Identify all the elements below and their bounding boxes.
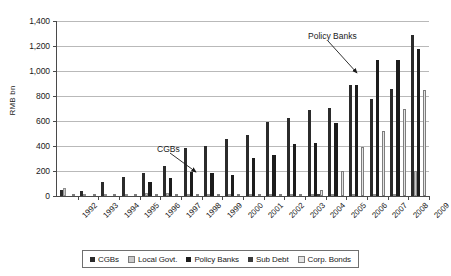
legend-label: Sub Debt bbox=[256, 255, 289, 264]
bar bbox=[196, 194, 199, 196]
legend-swatch-icon bbox=[128, 256, 135, 263]
x-axis-label: 2004 bbox=[329, 201, 348, 220]
x-tick-mark bbox=[388, 196, 389, 200]
legend-label: CGBs bbox=[98, 255, 119, 264]
x-axis-label: 2001 bbox=[267, 201, 286, 220]
bar bbox=[299, 194, 302, 196]
x-axis-label: 1999 bbox=[225, 201, 244, 220]
x-tick-mark bbox=[284, 196, 285, 200]
bar bbox=[204, 146, 207, 196]
bar bbox=[361, 147, 364, 197]
bar-group bbox=[181, 21, 202, 196]
x-axis-label: 2006 bbox=[370, 201, 389, 220]
bar bbox=[266, 122, 269, 196]
y-tick-label: 1,200 bbox=[16, 42, 50, 51]
x-axis-label: 1996 bbox=[163, 201, 182, 220]
bar bbox=[320, 190, 323, 197]
x-tick-mark bbox=[222, 196, 223, 200]
x-axis-label: 2005 bbox=[349, 201, 368, 220]
legend-item[interactable]: Corp. Bonds bbox=[298, 255, 351, 264]
legend-swatch-icon bbox=[90, 257, 95, 262]
bar bbox=[252, 158, 255, 196]
bar bbox=[355, 85, 358, 196]
bar-group bbox=[284, 21, 305, 196]
bar-group bbox=[57, 21, 78, 196]
y-tick-label: 400 bbox=[16, 142, 50, 151]
bar bbox=[231, 175, 234, 196]
bar bbox=[163, 166, 166, 196]
bar-group bbox=[78, 21, 99, 196]
bar bbox=[349, 85, 352, 196]
x-tick-mark bbox=[160, 196, 161, 200]
chart-annotation-label: CGBs bbox=[157, 144, 180, 154]
bar-group bbox=[388, 21, 409, 196]
legend-item[interactable]: Policy Banks bbox=[186, 255, 239, 264]
legend-label: Local Govt. bbox=[138, 255, 177, 264]
chart-legend: CGBsLocal Govt.Policy BanksSub DebtCorp.… bbox=[82, 250, 359, 268]
x-tick-mark bbox=[202, 196, 203, 200]
bar bbox=[341, 171, 344, 196]
x-axis-label: 2003 bbox=[308, 201, 327, 220]
legend-swatch-icon bbox=[248, 257, 253, 262]
x-axis-label: 2007 bbox=[391, 201, 410, 220]
x-axis-label: 2008 bbox=[411, 201, 430, 220]
bar bbox=[63, 188, 66, 196]
y-tick-label: 600 bbox=[16, 117, 50, 126]
x-tick-mark bbox=[181, 196, 182, 200]
bar-group bbox=[305, 21, 326, 196]
x-axis-label: 2009 bbox=[432, 201, 451, 220]
bar bbox=[93, 194, 96, 196]
plot-area bbox=[56, 21, 429, 197]
bar bbox=[272, 155, 275, 196]
bar bbox=[155, 194, 158, 196]
bar bbox=[217, 194, 220, 196]
x-tick-mark bbox=[243, 196, 244, 200]
bar-group bbox=[160, 21, 181, 196]
y-tick-label: 800 bbox=[16, 92, 50, 101]
bar bbox=[246, 135, 249, 196]
legend-item[interactable]: Sub Debt bbox=[248, 255, 289, 264]
bar bbox=[72, 194, 75, 196]
y-tick-label: 200 bbox=[16, 167, 50, 176]
bar bbox=[314, 143, 317, 196]
x-tick-mark bbox=[346, 196, 347, 200]
bar bbox=[334, 123, 337, 196]
x-tick-mark bbox=[78, 196, 79, 200]
bar-group bbox=[326, 21, 347, 196]
x-axis-label: 1993 bbox=[101, 201, 120, 220]
bar bbox=[423, 90, 426, 196]
x-tick-mark bbox=[264, 196, 265, 200]
y-tick-mark bbox=[53, 196, 57, 197]
legend-item[interactable]: CGBs bbox=[90, 255, 119, 264]
legend-label: Policy Banks bbox=[194, 255, 239, 264]
y-tick-label: 0 bbox=[16, 192, 50, 201]
bar-group bbox=[119, 21, 140, 196]
x-tick-mark bbox=[326, 196, 327, 200]
legend-label: Corp. Bonds bbox=[308, 255, 351, 264]
bar bbox=[113, 194, 116, 196]
x-tick-mark bbox=[305, 196, 306, 200]
bar-group bbox=[367, 21, 388, 196]
legend-swatch-icon bbox=[298, 256, 305, 263]
legend-item[interactable]: Local Govt. bbox=[128, 255, 177, 264]
chart-annotation-label: Policy Banks bbox=[308, 31, 357, 41]
bar-group bbox=[264, 21, 285, 196]
x-tick-mark bbox=[140, 196, 141, 200]
x-axis-label: 1994 bbox=[122, 201, 141, 220]
bar bbox=[83, 194, 86, 196]
bar bbox=[279, 194, 282, 196]
bar bbox=[169, 178, 172, 196]
x-tick-mark bbox=[408, 196, 409, 200]
bar bbox=[293, 144, 296, 197]
bar bbox=[403, 109, 406, 197]
bar bbox=[376, 60, 379, 196]
x-tick-mark bbox=[367, 196, 368, 200]
bar bbox=[370, 99, 373, 197]
x-axis-label: 2000 bbox=[246, 201, 265, 220]
y-tick-label: 1,400 bbox=[16, 17, 50, 26]
bar-group bbox=[98, 21, 119, 196]
legend-swatch-icon bbox=[186, 257, 191, 262]
bar bbox=[104, 194, 107, 196]
bar bbox=[125, 194, 128, 196]
